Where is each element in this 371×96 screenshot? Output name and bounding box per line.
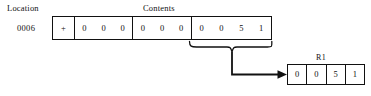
transfer-arrow-line — [232, 53, 280, 75]
memory-digit: 0 — [141, 24, 145, 33]
memory-address-value: 0006 — [17, 24, 35, 33]
memory-digit: 1 — [259, 24, 263, 33]
arrowhead-icon — [278, 70, 288, 79]
memory-to-register-diagram: Location Contents 0006 + 0 0 0 0 0 0 0 0… — [0, 0, 371, 96]
memory-digit: 0 — [101, 24, 105, 33]
register-cell: 1 — [346, 65, 364, 84]
register-digit: 0 — [314, 70, 318, 79]
memory-sign-cell: + — [53, 17, 75, 39]
memory-digit: 0 — [121, 24, 125, 33]
location-column-label: Location — [7, 4, 39, 13]
register-cell: 0 — [307, 65, 326, 84]
register-label: R1 — [316, 54, 326, 62]
register-digit: 5 — [334, 70, 338, 79]
memory-digit: 0 — [82, 24, 86, 33]
register-digit: 1 — [353, 70, 357, 79]
register-cell: 0 — [288, 65, 307, 84]
register-r1-box: 0 0 5 1 — [287, 64, 365, 85]
memory-word-box: + 0 0 0 0 0 0 0 0 5 1 — [52, 16, 272, 40]
memory-digit-group-1: 0 0 0 — [75, 17, 133, 39]
contents-column-label: Contents — [143, 4, 175, 13]
curly-brace-icon — [190, 42, 272, 52]
memory-digit-group-2: 0 0 0 — [133, 17, 191, 39]
register-digit: 0 — [295, 70, 299, 79]
memory-digit-group-3: 0 0 5 1 — [192, 17, 271, 39]
memory-sign-char: + — [61, 24, 66, 33]
memory-digit: 0 — [179, 24, 183, 33]
memory-digit: 0 — [160, 24, 164, 33]
register-cell: 5 — [327, 65, 346, 84]
memory-digit: 0 — [219, 24, 223, 33]
memory-digit: 0 — [200, 24, 204, 33]
memory-digit: 5 — [239, 24, 243, 33]
